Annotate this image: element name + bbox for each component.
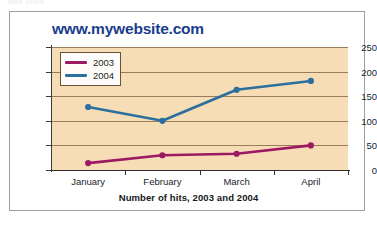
x-tick-label-february: February: [143, 176, 181, 187]
x-tick-label-march: March: [223, 176, 249, 187]
legend-item-2003: 2003: [65, 56, 114, 69]
gridline-50: [51, 145, 348, 146]
y-tick-50: [46, 145, 52, 146]
y-tick-label-200: 200: [337, 66, 377, 77]
y-tick-label-250: 250: [337, 42, 377, 53]
legend-swatch-2004: [65, 74, 87, 77]
legend-label-2003: 2003: [93, 58, 114, 68]
y-tick-200: [46, 72, 52, 73]
y-tick-label-100: 100: [337, 115, 377, 126]
y-tick-250: [46, 47, 52, 48]
chart-legend: 2003 2004: [60, 52, 121, 86]
legend-swatch-2003: [65, 61, 87, 64]
legend-label-2004: 2004: [93, 71, 114, 81]
legend-item-2004: 2004: [65, 69, 114, 82]
y-tick-label-150: 150: [337, 91, 377, 102]
chart-caption: Number of hits, 2003 and 2004: [0, 192, 377, 203]
y-axis-line: [51, 45, 52, 172]
x-tick-0: [125, 170, 126, 175]
x-tick-1: [200, 170, 201, 175]
x-tick-label-january: January: [71, 176, 105, 187]
y-tick-150: [46, 96, 52, 97]
y-tick-label-0: 0: [337, 165, 377, 176]
gridline-250: [51, 47, 348, 48]
y-tick-0: [46, 170, 52, 171]
x-tick-label-april: April: [301, 176, 320, 187]
x-tick-3: [348, 170, 349, 175]
gridline-150: [51, 96, 348, 97]
y-tick-label-50: 50: [337, 140, 377, 151]
y-tick-100: [46, 121, 52, 122]
gridline-100: [51, 121, 348, 122]
x-tick-2: [274, 170, 275, 175]
